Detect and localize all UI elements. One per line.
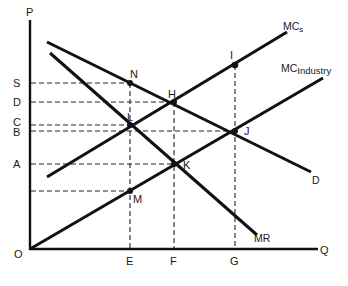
- point-label-k: K: [183, 159, 191, 171]
- marginal-revenue-curve: [50, 53, 257, 235]
- mc-industry-label: MCIndustry: [281, 62, 331, 76]
- mc-s-label-main: MC: [283, 20, 300, 32]
- mc-s-label-sub: s: [299, 25, 303, 34]
- price-label-a: A: [13, 158, 21, 170]
- horizontal-guides: [31, 83, 235, 191]
- price-label-d: D: [13, 96, 21, 108]
- quantity-label-f: F: [170, 255, 177, 267]
- mc-s-label: MCs: [283, 20, 303, 34]
- economics-diagram: P Q O S D C B A E F G N H I L J K M D MR…: [0, 0, 348, 286]
- point-n-marker: [127, 80, 133, 86]
- quantity-label-g: G: [230, 255, 239, 267]
- point-label-l: L: [127, 111, 133, 123]
- point-j-marker: [232, 128, 238, 134]
- quantity-label-e: E: [126, 255, 133, 267]
- origin-label: O: [14, 248, 23, 260]
- mc-industry-label-main: MC: [281, 62, 298, 74]
- vertical-guides: [130, 65, 235, 249]
- point-label-i: I: [230, 49, 233, 61]
- price-label-s: S: [13, 77, 20, 89]
- mc-industry-label-sub: Industry: [297, 65, 331, 76]
- mr-label: MR: [254, 232, 271, 244]
- demand-label: D: [312, 174, 320, 186]
- point-label-h: H: [168, 88, 176, 100]
- point-i-marker: [232, 62, 239, 69]
- point-label-j: J: [244, 125, 250, 137]
- price-label-b: B: [13, 126, 20, 138]
- q-axis-label: Q: [320, 244, 329, 256]
- p-axis-label: P: [26, 6, 33, 18]
- point-label-m: M: [133, 193, 142, 205]
- point-label-n: N: [130, 68, 138, 80]
- point-k-marker: [171, 161, 177, 167]
